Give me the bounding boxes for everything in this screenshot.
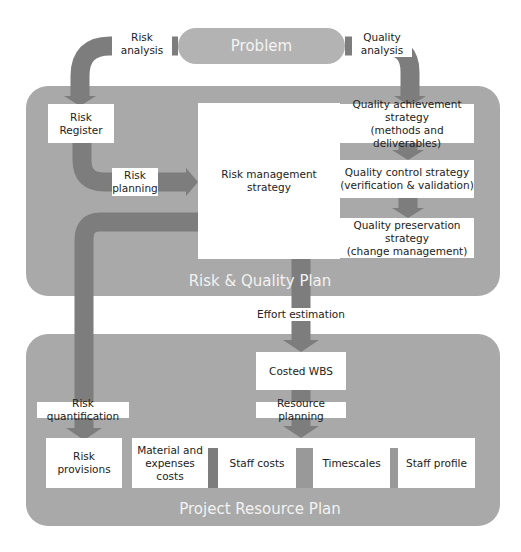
effort-estimation-label: Effort estimation bbox=[250, 308, 352, 321]
arrowhead-risk-mgmt bbox=[186, 168, 198, 196]
risk-management-strategy-box: Risk management strategy bbox=[198, 103, 340, 259]
costed-wbs-box: Costed WBS bbox=[256, 352, 346, 390]
risk-analysis-label: Risk analysis bbox=[112, 31, 172, 57]
quality-achievement-box: Quality achievement strategy (methods an… bbox=[340, 104, 474, 143]
quality-control-box: Quality control strategy (verification &… bbox=[340, 160, 474, 198]
arrowhead-quality-control bbox=[392, 150, 424, 160]
timescales-box: Timescales bbox=[313, 438, 390, 488]
problem-label: Problem bbox=[231, 37, 292, 55]
quality-analysis-label: Quality analysis bbox=[352, 31, 412, 57]
risk-quantification-label: Risk quantification bbox=[37, 402, 129, 418]
arrowhead-resources bbox=[283, 426, 319, 438]
arrowhead-costed-wbs bbox=[283, 340, 319, 352]
risk-quality-plan-title: Risk & Quality Plan bbox=[150, 272, 370, 290]
divider-2 bbox=[296, 448, 313, 488]
risk-provisions-box: Risk provisions bbox=[46, 438, 122, 488]
resource-planning-label: Resource planning bbox=[256, 402, 346, 418]
staff-costs-box: Staff costs bbox=[218, 438, 296, 488]
material-costs-box: Material and expenses costs bbox=[132, 438, 208, 488]
arrowhead-quality-preservation bbox=[392, 208, 424, 218]
project-resource-plan-title: Project Resource Plan bbox=[150, 500, 370, 518]
divider-1 bbox=[208, 448, 218, 488]
divider-3 bbox=[390, 448, 398, 488]
risk-planning-label: Risk planning bbox=[112, 168, 158, 196]
problem-node: Problem bbox=[178, 28, 345, 64]
quality-preservation-box: Quality preservation strategy (change ma… bbox=[340, 218, 474, 258]
risk-register-box: Risk Register bbox=[48, 104, 114, 143]
staff-profile-box: Staff profile bbox=[398, 438, 475, 488]
